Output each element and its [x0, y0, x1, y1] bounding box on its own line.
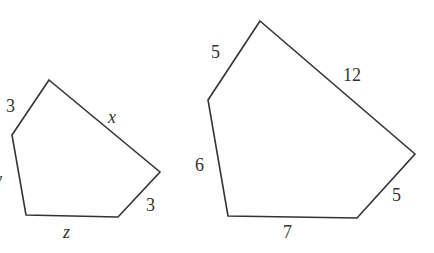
large-side-top-right-label: 12	[343, 65, 361, 85]
small-side-right-label: 3	[146, 195, 155, 215]
small-side-top-left-label: 3	[6, 96, 15, 116]
large-side-left-label: 6	[195, 155, 204, 175]
small-side-top-right-label: x	[107, 107, 116, 127]
large-pentagon-outline	[208, 21, 415, 218]
small-side-bottom-label: z	[62, 222, 70, 242]
large-pentagon: 5 12 5 7 6	[195, 21, 415, 242]
small-pentagon: 3 x 3 z y	[0, 80, 160, 242]
large-side-bottom-label: 7	[283, 222, 292, 242]
large-side-top-left-label: 5	[211, 42, 220, 62]
small-pentagon-outline	[12, 80, 160, 217]
large-side-right-label: 5	[392, 185, 401, 205]
small-side-left-label: y	[0, 169, 2, 189]
similar-pentagons-diagram: 3 x 3 z y 5 12 5 7 6	[0, 0, 434, 253]
